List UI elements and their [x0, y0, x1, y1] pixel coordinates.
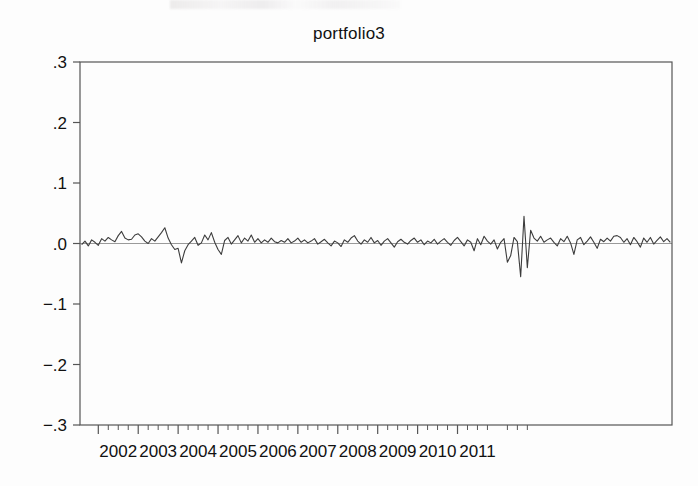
x-axis-tick-label: 2011	[459, 442, 496, 461]
y-axis-tick-label: −.2	[43, 356, 67, 375]
x-axis-tick-label: 2006	[259, 442, 297, 461]
x-axis-tick-label: 2003	[139, 442, 177, 461]
x-axis-tick-label: 2007	[299, 442, 337, 461]
x-axis-tick-label: 2005	[219, 442, 257, 461]
data-series-line	[82, 216, 671, 276]
y-axis-tick-label: .1	[53, 174, 67, 193]
line-chart-plot: .3.2.1.0−.1−.2−.3 2002200320042005200620…	[0, 0, 698, 486]
x-axis-minor-ticks	[108, 425, 527, 430]
x-axis-tick-label: 2008	[339, 442, 377, 461]
x-axis-tick-label: 2002	[99, 442, 137, 461]
y-axis-tick-label: .3	[53, 53, 67, 72]
y-axis-tick-labels: .3.2.1.0−.1−.2−.3	[43, 53, 67, 435]
y-axis-ticks	[73, 62, 80, 425]
x-axis-tick-label: 2010	[419, 442, 457, 461]
x-axis-tick-label: 2004	[179, 442, 217, 461]
chart-title: portfolio3	[0, 24, 698, 44]
y-axis-tick-label: −.3	[43, 416, 67, 435]
chart-figure: portfolio3 .3.2.1.0−.1−.2−.3 20022003200…	[0, 0, 698, 486]
x-axis-tick-labels: 2002200320042005200620072008200920102011	[99, 442, 495, 461]
y-axis-tick-label: .0	[53, 235, 67, 254]
y-axis-tick-label: .2	[53, 114, 67, 133]
x-axis-tick-label: 2009	[379, 442, 417, 461]
y-axis-tick-label: −.1	[43, 295, 67, 314]
